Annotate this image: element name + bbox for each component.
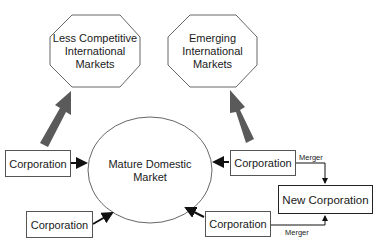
- corporation-box-left-upper: Corporation: [5, 150, 71, 177]
- merger-connector-upper: [296, 163, 325, 183]
- label-line: International: [168, 45, 257, 58]
- big-arrow-right: [230, 90, 254, 143]
- merger-label-upper: Merger: [299, 153, 323, 162]
- merger-connector-lower: [271, 216, 325, 225]
- merger-label-lower: Merger: [285, 228, 309, 237]
- label-line: Mature Domestic: [100, 158, 200, 171]
- label-less-competitive-markets: Less Competitive International Markets: [50, 32, 140, 71]
- arrow-left-lower: [93, 213, 112, 224]
- new-corporation-box: New Corporation: [278, 185, 373, 214]
- corporation-box-right-upper: Corporation: [230, 150, 296, 176]
- label-line: Markets: [168, 58, 257, 71]
- label-line: Markets: [50, 58, 140, 71]
- arrow-right-lower: [186, 208, 204, 217]
- big-arrow-left: [40, 91, 71, 147]
- label-line: Less Competitive: [50, 32, 140, 45]
- label-line: Emerging: [168, 32, 257, 45]
- label-mature-domestic-market: Mature Domestic Market: [100, 158, 200, 184]
- label-line: Market: [100, 171, 200, 184]
- corporation-box-right-lower: Corporation: [205, 211, 271, 237]
- label-line: International: [50, 45, 140, 58]
- label-emerging-markets: Emerging International Markets: [168, 32, 257, 71]
- corporation-box-left-lower: Corporation: [26, 211, 93, 238]
